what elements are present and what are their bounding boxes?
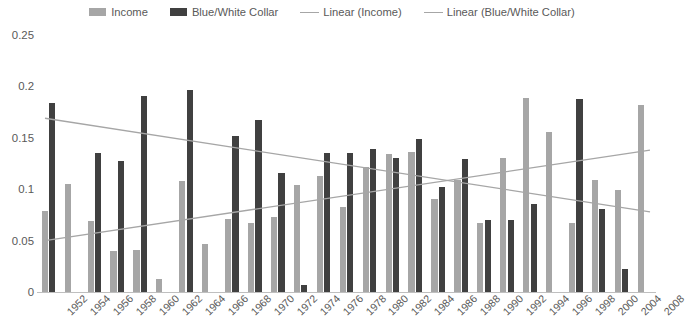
- trendline-blue-white-collar: [45, 118, 650, 212]
- x-axis-tick-label: 1958: [134, 293, 158, 317]
- footer-artifact: [0, 330, 664, 335]
- x-axis-tick-label: 2008: [661, 293, 685, 317]
- legend-item-label: Income: [111, 7, 148, 18]
- legend-linear-blue-white-collar[interactable]: Linear (Blue/White Collar): [424, 7, 575, 18]
- x-axis-tick-label: 1962: [180, 293, 204, 317]
- y-axis-tick-label: 0: [0, 287, 34, 298]
- legend-linear-income-line-icon: [300, 12, 319, 13]
- x-axis-tick-label: 2004: [639, 293, 663, 317]
- x-axis-labels: 1952195419561958196019621964196619681970…: [37, 293, 656, 335]
- x-axis-tick-label: 1996: [570, 293, 594, 317]
- x-axis-tick-label: 1954: [88, 293, 112, 317]
- y-axis-tick-label: 0.15: [0, 133, 34, 144]
- x-axis-tick-label: 1952: [65, 293, 89, 317]
- legend-item-label: Blue/White Collar: [192, 7, 278, 18]
- x-axis-tick-label: 1970: [272, 293, 296, 317]
- x-axis-tick-label: 1980: [386, 293, 410, 317]
- x-axis-tick-label: 1984: [432, 293, 456, 317]
- x-axis-tick-label: 1982: [409, 293, 433, 317]
- x-axis-tick-label: 1994: [547, 293, 571, 317]
- legend-blue-white-collar[interactable]: Blue/White Collar: [170, 7, 278, 18]
- legend-blue-white-collar-swatch-icon: [170, 8, 187, 16]
- legend-item-label: Linear (Income): [323, 7, 401, 18]
- x-axis-tick-label: 1986: [455, 293, 479, 317]
- x-axis-tick-label: 1976: [340, 293, 364, 317]
- x-axis-tick-label: 1990: [501, 293, 525, 317]
- y-axis-tick-label: 0.25: [0, 30, 34, 41]
- trendlines-layer: [37, 36, 656, 293]
- plot-area: [37, 36, 656, 293]
- x-axis-tick-label: 1992: [524, 293, 548, 317]
- x-axis-tick-label: 1978: [363, 293, 387, 317]
- legend-linear-income[interactable]: Linear (Income): [300, 7, 401, 18]
- y-axis-tick-label: 0.05: [0, 236, 34, 247]
- trendline-income: [45, 150, 650, 240]
- x-axis-tick-label: 1972: [295, 293, 319, 317]
- y-axis-tick-label: 0.2: [0, 81, 34, 92]
- chart-legend: IncomeBlue/White CollarLinear (Income)Li…: [0, 4, 664, 20]
- legend-linear-blue-white-collar-line-icon: [424, 12, 443, 13]
- legend-income[interactable]: Income: [89, 7, 148, 18]
- x-axis-tick-label: 1960: [157, 293, 181, 317]
- x-axis-tick-label: 1974: [318, 293, 342, 317]
- x-axis-tick-label: 2000: [616, 293, 640, 317]
- x-axis-tick-label: 1998: [593, 293, 617, 317]
- y-axis-labels: 00.050.10.150.20.25: [0, 0, 34, 335]
- x-axis-tick-label: 1966: [226, 293, 250, 317]
- legend-item-label: Linear (Blue/White Collar): [447, 7, 575, 18]
- x-axis-tick-label: 1968: [249, 293, 273, 317]
- y-axis-tick-label: 0.1: [0, 184, 34, 195]
- x-axis-tick-label: 1956: [111, 293, 135, 317]
- x-axis-tick-label: 1988: [478, 293, 502, 317]
- x-axis-tick-label: 1964: [203, 293, 227, 317]
- legend-income-swatch-icon: [89, 8, 106, 16]
